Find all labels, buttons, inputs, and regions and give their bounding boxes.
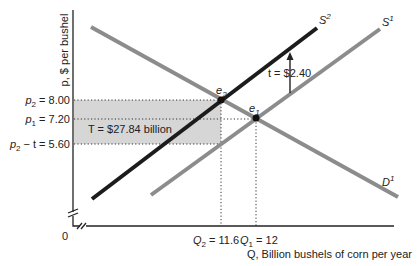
x-tick-q1: Q1 = 12	[240, 234, 278, 249]
x-axis-title: Q, Billion bushels of corn per year	[247, 248, 412, 260]
s2-label: S2	[319, 12, 331, 26]
tax-revenue-label: T = $27.84 billion	[88, 123, 172, 135]
axis-corner	[73, 216, 80, 226]
arrow-up-icon	[287, 52, 294, 60]
tax-revenue-area	[74, 100, 221, 144]
x-tick-q2: Q2 = 11.6	[193, 234, 239, 249]
y-axis-title: p, $ per bushel	[58, 14, 70, 87]
y-tick-p2-minus-t: p2 − t = 5.60	[9, 138, 70, 153]
tax-label: t = $2.40	[268, 67, 311, 79]
y-tick-p1: p1 = 7.20	[24, 113, 70, 128]
origin-label: 0	[62, 230, 68, 242]
y-tick-p2: p2 = 8.00	[24, 94, 70, 109]
s1-label: S1	[382, 14, 394, 28]
chart-canvas: S2 S1 D1 e2 e1 t = $2.40 T = $27.84 bill…	[0, 0, 418, 266]
d1-label: D1	[382, 174, 394, 188]
